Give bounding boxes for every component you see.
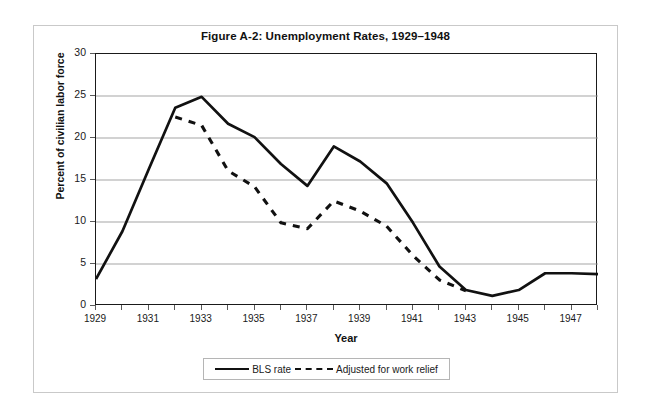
x-tick-mark [333, 305, 334, 310]
x-tick-mark [121, 305, 122, 310]
legend-label: BLS rate [252, 364, 291, 375]
series-line-1 [96, 97, 598, 296]
x-tick-label: 1935 [234, 313, 274, 324]
x-tick-label: 1943 [445, 313, 485, 324]
x-tick-mark [95, 305, 96, 310]
chart-legend: BLS rateAdjusted for work relief [203, 358, 450, 380]
x-tick-mark [465, 305, 466, 310]
x-tick-label: 1939 [339, 313, 379, 324]
series-line-2 [175, 117, 466, 291]
x-tick-mark [280, 305, 281, 310]
figure-container: Figure A-2: Unemployment Rates, 1929–194… [0, 0, 653, 417]
y-tick-label: 5 [52, 257, 86, 267]
series-lines [96, 97, 598, 296]
y-tick-label: 25 [52, 89, 86, 99]
x-tick-mark [491, 305, 492, 310]
legend-dashed-line-icon [295, 368, 333, 370]
x-axis-title: Year [95, 332, 597, 344]
x-tick-label: 1947 [551, 313, 591, 324]
x-tick-mark [227, 305, 228, 310]
legend-entry-2: Adjusted for work relief [295, 364, 438, 375]
x-tick-label: 1929 [75, 313, 115, 324]
x-tick-label: 1937 [286, 313, 326, 324]
x-tick-mark [201, 305, 202, 310]
chart-title: Figure A-2: Unemployment Rates, 1929–194… [33, 30, 618, 42]
legend-solid-line-icon [215, 368, 249, 370]
x-tick-mark [254, 305, 255, 310]
x-tick-label: 1931 [128, 313, 168, 324]
y-tick-label: 20 [52, 131, 86, 141]
x-tick-mark [571, 305, 572, 310]
x-tick-mark [597, 305, 598, 310]
x-tick-mark [359, 305, 360, 310]
x-tick-mark [174, 305, 175, 310]
y-tick-label: 30 [52, 47, 86, 57]
x-tick-mark [148, 305, 149, 310]
y-axis-title: Percent of civilian labor force [54, 6, 66, 246]
plot-area [95, 53, 597, 305]
x-tick-label: 1933 [181, 313, 221, 324]
x-tick-label: 1941 [392, 313, 432, 324]
x-tick-mark [518, 305, 519, 310]
legend-label: Adjusted for work relief [336, 364, 438, 375]
x-tick-mark [306, 305, 307, 310]
y-tick-label: 10 [52, 215, 86, 225]
x-tick-mark [386, 305, 387, 310]
legend-entry-1: BLS rate [215, 364, 291, 375]
x-tick-mark [544, 305, 545, 310]
gridlines [96, 96, 598, 264]
y-tick-label: 15 [52, 173, 86, 183]
x-tick-mark [438, 305, 439, 310]
x-tick-mark [412, 305, 413, 310]
y-tick-label: 0 [52, 299, 86, 309]
plot-svg [96, 54, 598, 306]
x-tick-label: 1945 [498, 313, 538, 324]
